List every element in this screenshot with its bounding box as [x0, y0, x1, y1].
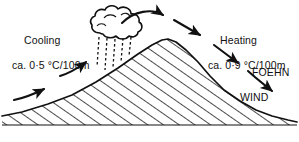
foehn-diagram-figure: Cooling ca. 0·5 °C/100m Heating ca. 0·9 …: [0, 0, 299, 142]
foehn-wind-label: FOEHN WIND: [240, 53, 289, 130]
foehn-label-line2: WIND: [240, 91, 289, 104]
foehn-label-line1: FOEHN: [252, 66, 289, 78]
cooling-label-line1: Cooling: [24, 34, 60, 46]
cloud-outline: [91, 6, 142, 39]
cooling-label: Cooling ca. 0·5 °C/100m: [12, 22, 89, 96]
cooling-label-line2: ca. 0·5 °C/100m: [12, 59, 89, 71]
lee-arrow-upper: [174, 20, 200, 35]
cumulus-cloud-icon: [91, 6, 142, 39]
heating-label-line1: Heating: [220, 34, 257, 46]
